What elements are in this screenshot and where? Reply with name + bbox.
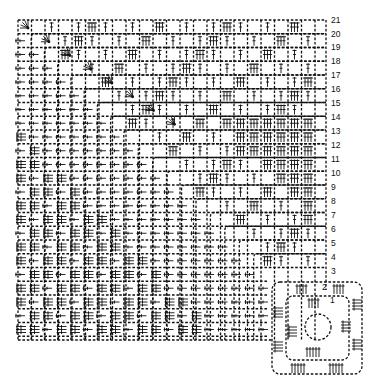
row-label: 5 <box>331 239 336 248</box>
row-label: 6 <box>331 225 336 234</box>
row-label: 3 <box>331 267 336 276</box>
row-label: 7 <box>331 211 336 220</box>
row-label: 14 <box>331 113 340 122</box>
row-label: 12 <box>331 141 340 150</box>
row-label: 11 <box>331 155 340 164</box>
row-label: 8 <box>331 197 336 206</box>
row-label: 18 <box>331 57 340 66</box>
row-label: 15 <box>331 99 340 108</box>
row-label: 17 <box>331 71 340 80</box>
row-label: 16 <box>331 85 340 94</box>
row-label: 13 <box>331 127 340 136</box>
row-label: 4 <box>331 253 336 262</box>
row-label: 21 <box>331 16 340 25</box>
row-label: 19 <box>331 43 340 52</box>
motif-round-label: 2 <box>322 283 327 292</box>
granny-square-motif <box>272 282 362 374</box>
row-label: 20 <box>331 30 340 39</box>
motif-round-label: 1 <box>330 296 335 305</box>
stitch-grid <box>15 20 326 340</box>
row-label: 10 <box>331 169 340 178</box>
row-label: 9 <box>331 183 336 192</box>
crochet-chart <box>0 0 375 383</box>
